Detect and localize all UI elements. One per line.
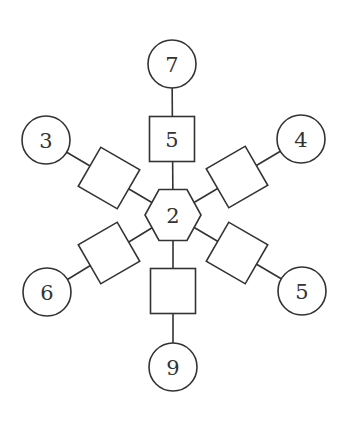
circle-label: 6 [40, 281, 53, 305]
square-upper-right [206, 146, 267, 207]
circle-upper-left: 3 [22, 116, 70, 164]
circle-label: 7 [165, 53, 178, 77]
circle-lower-right: 5 [278, 267, 326, 315]
circle-label: 4 [294, 128, 307, 152]
star-diagram: 57459632 [0, 0, 345, 421]
circle-upper-right: 4 [277, 115, 325, 163]
square-shape [151, 269, 196, 314]
square-shape [206, 222, 267, 283]
hexagon-label: 2 [166, 204, 179, 228]
square-upper-left [78, 147, 139, 208]
square-lower-right [206, 222, 267, 283]
square-lower-left [78, 222, 139, 283]
nodes: 57459632 [22, 40, 326, 391]
circle-label: 9 [166, 356, 179, 380]
square-up: 5 [150, 117, 195, 162]
circle-label: 5 [295, 280, 308, 304]
center-hexagon: 2 [145, 190, 201, 241]
circle-label: 3 [39, 129, 52, 153]
square-shape [78, 222, 139, 283]
circle-up: 7 [148, 40, 196, 88]
square-shape [206, 146, 267, 207]
square-down [151, 269, 196, 314]
circle-lower-left: 6 [23, 268, 71, 316]
square-shape [78, 147, 139, 208]
square-label: 5 [165, 128, 178, 152]
circle-down: 9 [149, 343, 197, 391]
